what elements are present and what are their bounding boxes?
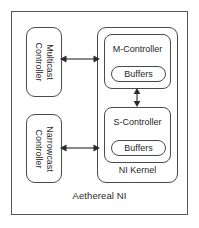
s-controller-title: S-Controller [105, 117, 170, 127]
m-controller-buffers: Buffers [111, 66, 166, 82]
multicast-controller-label-line1: Multicast [44, 42, 55, 81]
narrowcast-to-kernel-arrow [60, 141, 100, 155]
narrowcast-controller-label-line1: Narrowcast [44, 126, 55, 172]
s-controller-box: S-Controller Buffers [104, 107, 171, 163]
s-controller-buffers: Buffers [111, 140, 166, 156]
narrowcast-controller-label-line2: Controller [33, 126, 44, 172]
m-controller-box: M-Controller Buffers [104, 34, 171, 89]
m-controller-title: M-Controller [105, 44, 170, 54]
multicast-controller-label-line2: Controller [33, 42, 44, 81]
multicast-to-kernel-arrow [60, 52, 100, 66]
m-controller-to-s-controller-arrow [130, 88, 144, 107]
narrowcast-controller-box: Narrowcast Controller [26, 114, 62, 183]
ni-kernel-label: NI Kernel [97, 165, 178, 175]
multicast-controller-box: Multicast Controller [26, 27, 62, 97]
aethereal-ni-label: Aethereal NI [11, 190, 188, 201]
narrowcast-controller-label: Narrowcast Controller [33, 126, 55, 172]
aethereal-ni-diagram: Multicast Controller Narrowcast Controll… [0, 0, 199, 228]
multicast-controller-label: Multicast Controller [33, 42, 55, 81]
